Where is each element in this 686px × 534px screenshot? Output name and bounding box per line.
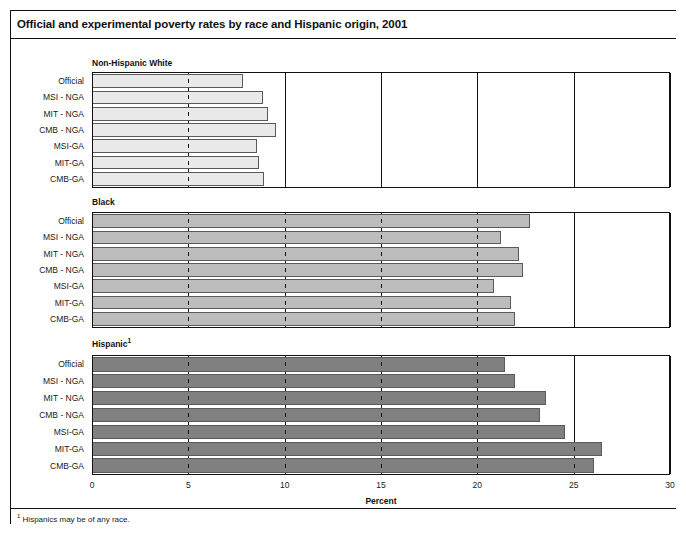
bar-tickmark (285, 301, 286, 305)
bar-tickmark (381, 379, 382, 383)
frame-left-border (10, 10, 11, 524)
footnote-text: Hispanics may be of any race. (23, 515, 130, 524)
plot-area (92, 355, 670, 475)
frame-top-border (10, 10, 676, 11)
bar (93, 156, 259, 170)
bar-tickmark (188, 235, 189, 239)
bar-tickmark (477, 284, 478, 288)
bar-tickmark (188, 413, 189, 417)
bar-tickmark (477, 235, 478, 239)
bar (93, 247, 519, 261)
figure-footnote: 1 Hispanics may be of any race. (17, 515, 130, 524)
bar (93, 231, 501, 245)
bar (93, 357, 505, 371)
gridline-25 (574, 73, 575, 187)
x-tick-label-25: 25 (569, 480, 578, 490)
x-tick-label-10: 10 (280, 480, 289, 490)
bar-tickmark (188, 219, 189, 223)
bar-tickmark (188, 95, 189, 99)
bar-tickmark (285, 413, 286, 417)
bar-tickmark (188, 284, 189, 288)
bar (93, 425, 565, 439)
bar-tickmark (285, 268, 286, 272)
bar-tickmark (477, 464, 478, 468)
category-label-cmb-ga: CMB-GA (50, 174, 84, 184)
bar-tickmark (381, 219, 382, 223)
x-axis-line (92, 474, 670, 475)
bar-tickmark (188, 301, 189, 305)
bar-tickmark (188, 447, 189, 451)
bar-tickmark (188, 430, 189, 434)
bar-tickmark (477, 447, 478, 451)
bar (93, 408, 540, 422)
bar-tickmark (381, 396, 382, 400)
bar-tickmark (285, 379, 286, 383)
bar-tickmark (188, 177, 189, 181)
category-label-mit-nga: MIT - NGA (44, 393, 84, 403)
category-label-cmb-nga: CMB - NGA (39, 410, 84, 420)
gridline-15 (381, 73, 382, 187)
bar-tickmark (188, 161, 189, 165)
bar-tickmark (285, 396, 286, 400)
bar-tickmark (477, 396, 478, 400)
bar (93, 263, 523, 277)
bar (93, 458, 594, 472)
bar-tickmark (188, 268, 189, 272)
category-label-mit-nga: MIT - NGA (44, 249, 84, 259)
panel-title: Hispanic1 (92, 339, 131, 349)
bar (93, 139, 257, 153)
category-label-cmb-nga: CMB - NGA (39, 265, 84, 275)
x-axis-title: Percent (365, 496, 396, 506)
bar (93, 312, 515, 326)
gridline-30 (670, 356, 671, 474)
category-label-mit-ga: MIT-GA (55, 444, 84, 454)
footnote-divider (10, 508, 676, 509)
panel-title: Black (92, 197, 115, 207)
bar (93, 91, 263, 105)
bar-tickmark (477, 430, 478, 434)
bar (93, 123, 276, 137)
bar-tickmark (188, 79, 189, 83)
category-label-msi-nga: MSI - NGA (43, 232, 84, 242)
category-label-msi-ga: MSI-GA (54, 141, 84, 151)
category-label-mit-ga: MIT-GA (55, 298, 84, 308)
bar (93, 296, 511, 310)
x-tick-label-20: 20 (473, 480, 482, 490)
panel-title: Non-Hispanic White (92, 58, 172, 68)
category-label-mit-nga: MIT - NGA (44, 109, 84, 119)
category-label-cmb-ga: CMB-GA (50, 461, 84, 471)
bar (93, 172, 264, 186)
figure-title: Official and experimental poverty rates … (17, 18, 407, 30)
panel-title-text: Non-Hispanic White (92, 58, 172, 68)
x-tick-label-5: 5 (186, 480, 191, 490)
category-label-cmb-nga: CMB - NGA (39, 125, 84, 135)
bar-tickmark (188, 379, 189, 383)
bar-tickmark (188, 144, 189, 148)
bar-tickmark (381, 362, 382, 366)
category-label-msi-nga: MSI - NGA (43, 376, 84, 386)
bar-tickmark (477, 362, 478, 366)
category-label-official: Official (58, 359, 84, 369)
bar-tickmark (477, 219, 478, 223)
bar-tickmark (285, 219, 286, 223)
panel-title-footnote-marker: 1 (127, 337, 131, 344)
bar (93, 74, 243, 88)
gridline-30 (670, 73, 671, 187)
category-label-msi-ga: MSI-GA (54, 281, 84, 291)
panel-title-text: Black (92, 197, 115, 207)
bar-tickmark (477, 317, 478, 321)
footnote-marker: 1 (17, 513, 20, 519)
bar-tickmark (285, 362, 286, 366)
category-label-official: Official (58, 76, 84, 86)
x-tick-label-0: 0 (90, 480, 95, 490)
plot-area (92, 72, 670, 188)
x-tick-label-15: 15 (376, 480, 385, 490)
bar (93, 279, 494, 293)
bar-tickmark (188, 112, 189, 116)
category-label-official: Official (58, 216, 84, 226)
bar-tickmark (188, 317, 189, 321)
bar-tickmark (285, 252, 286, 256)
bar-tickmark (188, 362, 189, 366)
bar-tickmark (381, 252, 382, 256)
category-label-msi-ga: MSI-GA (54, 427, 84, 437)
